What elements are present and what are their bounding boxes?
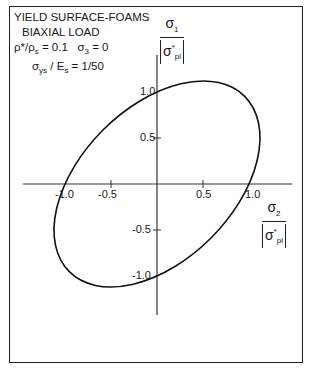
- x-tick-label: 1.0: [245, 188, 260, 200]
- y-tick-label: -0.5: [132, 223, 151, 235]
- x-axis-numerator: σ2: [262, 200, 286, 222]
- y-tick-label: -1.0: [132, 269, 151, 281]
- plot-area: [0, 0, 309, 372]
- x-axis-label: σ2 σ*pl: [262, 200, 286, 248]
- y-tick-label: 0.5: [140, 131, 155, 143]
- x-tick-label: -1.0: [55, 188, 74, 200]
- y-tick-label: 1.0: [140, 85, 155, 97]
- x-axis-denominator: σ*pl: [262, 224, 286, 248]
- y-axis-denominator: σ*pl: [160, 40, 184, 64]
- y-axis-numerator: σ1: [160, 16, 184, 38]
- x-tick-label: 0.5: [196, 188, 211, 200]
- y-axis-label: σ1 σ*pl: [160, 16, 184, 64]
- x-tick-label: -0.5: [98, 188, 117, 200]
